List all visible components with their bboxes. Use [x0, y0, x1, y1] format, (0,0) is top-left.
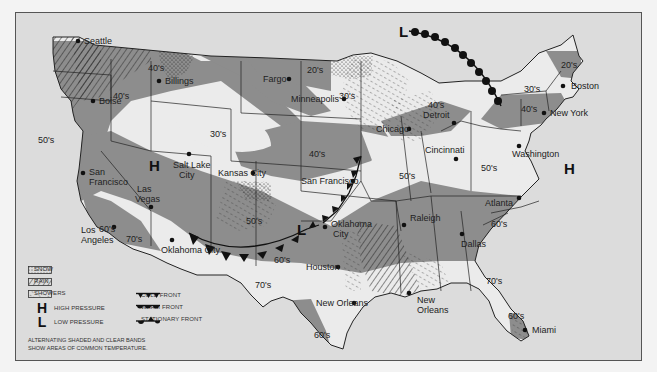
- svg-text:30's: 30's: [210, 129, 227, 139]
- svg-text:City: City: [179, 170, 195, 180]
- svg-text:40's: 40's: [428, 100, 445, 110]
- legend-item-cold-front: COLD FRONT: [136, 292, 181, 298]
- legend-note-line-1: ALTERNATING SHADED AND CLEAR BANDS: [28, 336, 147, 344]
- svg-text:Minneapolis: Minneapolis: [291, 94, 340, 104]
- weather-map-frame: H H L L Seattle Billings Boise Fargo Min…: [15, 12, 642, 361]
- svg-text:Cincinnati: Cincinnati: [425, 145, 465, 155]
- svg-text:Seattle: Seattle: [84, 36, 112, 46]
- svg-text:San Francisco: San Francisco: [301, 176, 359, 186]
- svg-text:40's: 40's: [309, 149, 326, 159]
- svg-text:New York: New York: [550, 108, 589, 118]
- legend-item-rain: RAIN: [28, 278, 49, 284]
- svg-text:Los: Los: [81, 225, 96, 235]
- legend-note: ALTERNATING SHADED AND CLEAR BANDS SHOW …: [28, 336, 147, 352]
- snow-pattern-icon: [28, 266, 52, 274]
- svg-text:30's: 30's: [524, 84, 541, 94]
- svg-text:Vegas: Vegas: [135, 194, 161, 204]
- legend-label-high-pressure: HIGH PRESSURE: [54, 305, 105, 311]
- svg-text:60's: 60's: [99, 224, 116, 234]
- svg-text:20's: 20's: [307, 65, 324, 75]
- legend-item-stationary-front: STATIONARY FRONT: [136, 316, 202, 322]
- svg-text:Washington: Washington: [512, 149, 559, 159]
- stationary-front-icon: [136, 316, 160, 324]
- city-chicago: Chicago: [376, 124, 411, 134]
- svg-text:70's: 70's: [126, 234, 143, 244]
- city-washington: Washington: [512, 144, 559, 159]
- svg-text:Las: Las: [137, 184, 152, 194]
- svg-text:Angeles: Angeles: [81, 235, 114, 245]
- svg-text:Salt Lake: Salt Lake: [173, 160, 211, 170]
- svg-text:50's: 50's: [246, 216, 263, 226]
- showers-pattern-icon: [28, 290, 52, 298]
- low-pressure-great-lakes: L: [399, 23, 408, 40]
- svg-text:Boston: Boston: [571, 81, 599, 91]
- legend-item-showers: SHOWERS: [28, 290, 66, 296]
- svg-text:20's: 20's: [561, 60, 578, 70]
- svg-text:Francisco: Francisco: [89, 177, 128, 187]
- svg-text:Raleigh: Raleigh: [410, 213, 441, 223]
- city-minneapolis: Minneapolis: [291, 94, 346, 104]
- svg-text:Oklahoma: Oklahoma: [331, 219, 372, 229]
- legend-item-low-pressure: L LOW PRESSURE: [32, 314, 104, 330]
- svg-text:New: New: [417, 295, 436, 305]
- svg-text:Dallas: Dallas: [461, 239, 487, 249]
- svg-text:40's: 40's: [148, 63, 165, 73]
- legend-item-warm-front: WARM FRONT: [136, 304, 183, 310]
- svg-text:Billings: Billings: [165, 76, 194, 86]
- legend-item-snow: SNOW: [28, 266, 53, 272]
- svg-text:30's: 30's: [339, 91, 356, 101]
- svg-text:Miami: Miami: [532, 325, 556, 335]
- svg-text:40's: 40's: [521, 104, 538, 114]
- rain-pattern-icon: [28, 278, 52, 286]
- svg-text:Oklahoma City: Oklahoma City: [161, 245, 221, 255]
- high-pressure-east: H: [564, 160, 575, 177]
- high-pressure-west: H: [149, 157, 160, 174]
- svg-text:Detroit: Detroit: [423, 110, 450, 120]
- city-denver: Kansas City: [218, 168, 267, 178]
- legend-note-line-2: SHOW AREAS OF COMMON TEMPERATURE.: [28, 344, 147, 352]
- svg-text:San: San: [89, 167, 105, 177]
- svg-text:Fargo: Fargo: [263, 74, 287, 84]
- low-pressure-oklahoma: L: [297, 221, 306, 238]
- svg-text:City: City: [333, 229, 349, 239]
- cold-front-icon: [136, 292, 160, 300]
- svg-text:Chicago: Chicago: [376, 124, 409, 134]
- svg-text:50's: 50's: [38, 135, 55, 145]
- warm-front-icon: [136, 304, 160, 312]
- legend-label-low-pressure: LOW PRESSURE: [54, 319, 104, 325]
- svg-text:Orleans: Orleans: [417, 305, 449, 315]
- svg-text:60's: 60's: [274, 255, 291, 265]
- svg-text:Kansas City: Kansas City: [218, 168, 267, 178]
- svg-text:60's: 60's: [491, 219, 508, 229]
- low-pressure-symbol-icon: L: [32, 314, 52, 330]
- svg-text:40's: 40's: [113, 91, 130, 101]
- svg-text:70's: 70's: [486, 276, 503, 286]
- city-kansas-city: San Francisco: [301, 176, 359, 186]
- svg-text:50's: 50's: [399, 171, 416, 181]
- svg-text:Atlanta: Atlanta: [485, 198, 513, 208]
- svg-text:60's: 60's: [508, 311, 525, 321]
- map-legend: SNOW RAIN SHOWERS H HIGH PRESSURE L LOW …: [24, 266, 324, 356]
- svg-text:50's: 50's: [481, 163, 498, 173]
